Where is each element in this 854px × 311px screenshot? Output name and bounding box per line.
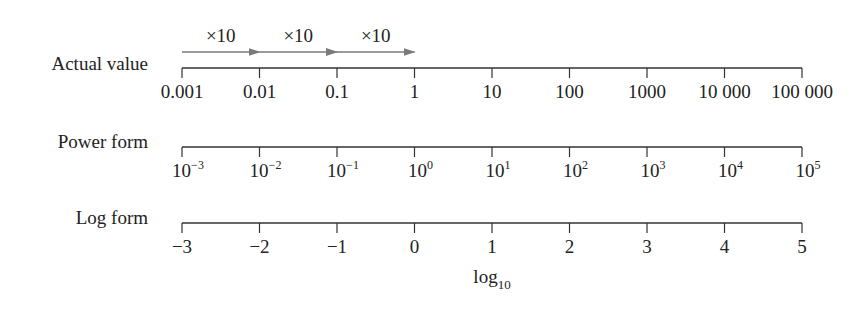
- arrow-label: ×10: [283, 25, 313, 46]
- tick-label: −2: [249, 236, 269, 257]
- log-scale-diagram: ×10×10×10 Actual value0.0010.010.1110100…: [0, 0, 854, 311]
- number-line-row: Power form10−310−210−1100101102103104105: [58, 131, 821, 181]
- tick-label: 1000: [628, 81, 666, 102]
- multiply-by-ten-arrows: ×10×10×10: [182, 25, 415, 52]
- tick-label: 2: [565, 236, 575, 257]
- number-line-row: Actual value0.0010.010.1110100100010 000…: [51, 53, 832, 102]
- tick-label: −1: [327, 236, 347, 257]
- number-line-row: Log form−3−2−1012345: [76, 207, 807, 257]
- tick-label: 102: [563, 158, 588, 181]
- tick-label: 10−2: [250, 158, 282, 181]
- tick-label: 1: [410, 81, 420, 102]
- tick-label: 5: [797, 236, 807, 257]
- number-lines: Actual value0.0010.010.1110100100010 000…: [51, 53, 832, 257]
- tick-label: 105: [796, 158, 821, 181]
- tick-label: 10−3: [172, 158, 204, 181]
- tick-label: 100 000: [771, 81, 833, 102]
- row-label: Actual value: [51, 53, 148, 74]
- tick-label: 104: [718, 158, 743, 181]
- row-label: Power form: [58, 131, 148, 152]
- tick-label: 0: [410, 236, 420, 257]
- tick-label: 10−1: [327, 158, 359, 181]
- tick-label: 103: [641, 158, 666, 181]
- arrow-label: ×10: [206, 25, 236, 46]
- tick-label: 3: [642, 236, 652, 257]
- arrow-label: ×10: [361, 25, 391, 46]
- tick-label: 4: [720, 236, 730, 257]
- tick-label: 0.01: [243, 81, 276, 102]
- tick-label: 10 000: [698, 81, 750, 102]
- tick-label: 1: [487, 236, 497, 257]
- tick-label: 101: [486, 158, 511, 181]
- row-label: Log form: [76, 207, 149, 228]
- tick-label: −3: [172, 236, 192, 257]
- tick-label: 0.1: [325, 81, 349, 102]
- tick-label: 100: [555, 81, 584, 102]
- tick-label: 10: [483, 81, 502, 102]
- axis-caption-log10: log10: [473, 266, 510, 292]
- tick-label: 100: [408, 158, 433, 181]
- tick-label: 0.001: [161, 81, 204, 102]
